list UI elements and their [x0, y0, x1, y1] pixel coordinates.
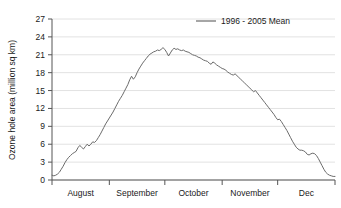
y-tick-label: 3 [40, 157, 45, 167]
x-tick-label: September [116, 188, 158, 198]
y-axis-tick-labels: 0369121518212427 [36, 14, 46, 185]
ozone-hole-area-chart: 0369121518212427 AugustSeptemberOctoberN… [0, 0, 341, 208]
y-tick-label: 21 [36, 50, 46, 60]
x-tick-label: Dec [299, 188, 315, 198]
y-tick-label: 9 [40, 121, 45, 131]
y-tick-label: 27 [36, 14, 46, 24]
data-series-group [52, 48, 335, 177]
x-axis-tick-labels: AugustSeptemberOctoberNovemberDec [67, 188, 314, 198]
chart-canvas: 0369121518212427 AugustSeptemberOctoberN… [0, 0, 341, 208]
legend: 1996 - 2005 Mean [196, 16, 290, 26]
legend-label: 1996 - 2005 Mean [221, 16, 290, 26]
y-axis: 0369121518212427 [36, 14, 52, 185]
y-tick-label: 0 [40, 175, 45, 185]
y-axis-ticks [48, 19, 52, 180]
x-tick-label: October [178, 188, 208, 198]
gridlines [52, 19, 335, 180]
y-tick-label: 6 [40, 139, 45, 149]
x-tick-label: November [230, 188, 269, 198]
y-axis-title: Ozone hole area (million sq km) [7, 40, 17, 160]
x-axis: AugustSeptemberOctoberNovemberDec [52, 180, 335, 198]
x-axis-ticks [52, 180, 335, 185]
series-line-1996-2005-mean [52, 48, 335, 177]
y-tick-label: 12 [36, 103, 46, 113]
x-tick-label: August [67, 188, 94, 198]
y-tick-label: 18 [36, 68, 46, 78]
y-tick-label: 15 [36, 86, 46, 96]
y-tick-label: 24 [36, 32, 46, 42]
